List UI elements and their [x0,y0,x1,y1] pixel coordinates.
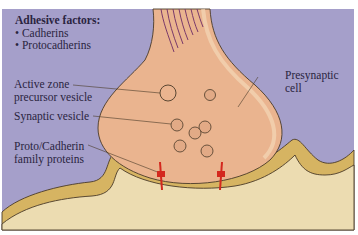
adhesive-factors-legend: Adhesive factors: Cadherins Protocadheri… [15,14,100,52]
presynaptic-cell-label: Presynaptic cell [285,69,339,94]
proto-cadherin-proteins-label: Proto/Cadherin family proteins [14,140,84,165]
active-zone-label: Active zone precursor vesicle [14,78,92,103]
synaptic-vesicle-label: Synaptic vesicle [14,110,89,123]
synapse-figure: Adhesive factors: Cadherins Protocadheri… [0,0,358,235]
legend-item-protocadherins: Protocadherins [15,39,100,52]
legend-title: Adhesive factors: [15,14,100,27]
legend-item-cadherins: Cadherins [15,27,100,40]
active-zone-precursor-vesicle [160,85,176,101]
